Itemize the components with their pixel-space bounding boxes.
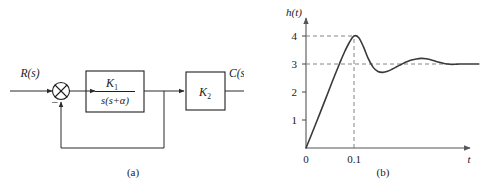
y-tick-label-4: 4 xyxy=(292,30,298,42)
output-signal-label: C(s) xyxy=(229,67,244,80)
plant-denominator: s(s+α) xyxy=(101,95,129,107)
y-tick-label-3: 3 xyxy=(292,58,298,70)
input-signal-label: R(s) xyxy=(19,67,39,80)
x-tick-label-0: 0 xyxy=(303,153,309,165)
gain-block-label: K2 xyxy=(198,85,211,101)
x-axis-label: t xyxy=(467,153,471,165)
caption-a: (a) xyxy=(127,166,140,179)
y-tick-label-2: 2 xyxy=(292,86,298,98)
feedback-sign-label: − xyxy=(52,95,59,109)
gain-block: K2 xyxy=(186,72,225,110)
step-response-panel: 1 2 3 4 0 0.1 h(t) t (b) xyxy=(244,0,488,193)
block-diagram-panel: − K1 s(s+α) K2 R(s) C(s) (a) xyxy=(0,0,244,193)
y-tick-label-1: 1 xyxy=(292,114,298,126)
y-axis-ticks xyxy=(302,36,306,120)
step-response-curve xyxy=(306,36,479,148)
figure-container: − K1 s(s+α) K2 R(s) C(s) (a) xyxy=(0,0,488,193)
caption-b: (b) xyxy=(377,166,390,179)
x-tick-label-0p1: 0.1 xyxy=(347,153,361,165)
plant-numerator: K1 xyxy=(105,76,118,92)
y-axis-label: h(t) xyxy=(286,6,302,19)
